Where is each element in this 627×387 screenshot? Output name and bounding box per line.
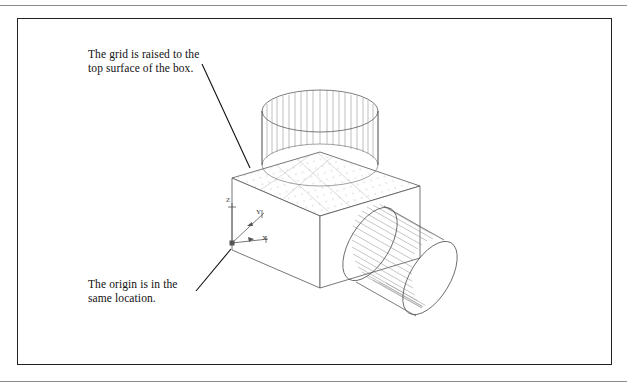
grid-annotation-text: The grid is raised to the top surface of… [88,47,199,75]
ucs-x-axis-label: X [262,234,267,242]
origin-note-leader [196,249,231,291]
ucs-z-axis-label: Z [226,196,230,204]
origin-annotation-text: The origin is in the same location. [88,277,178,305]
ucs-y-axis-label: Y [256,208,261,216]
grid-note-leader [202,64,250,168]
ucs-origin-marker [230,241,235,246]
page-canvas: The grid is raised to the top surface of… [0,0,627,387]
